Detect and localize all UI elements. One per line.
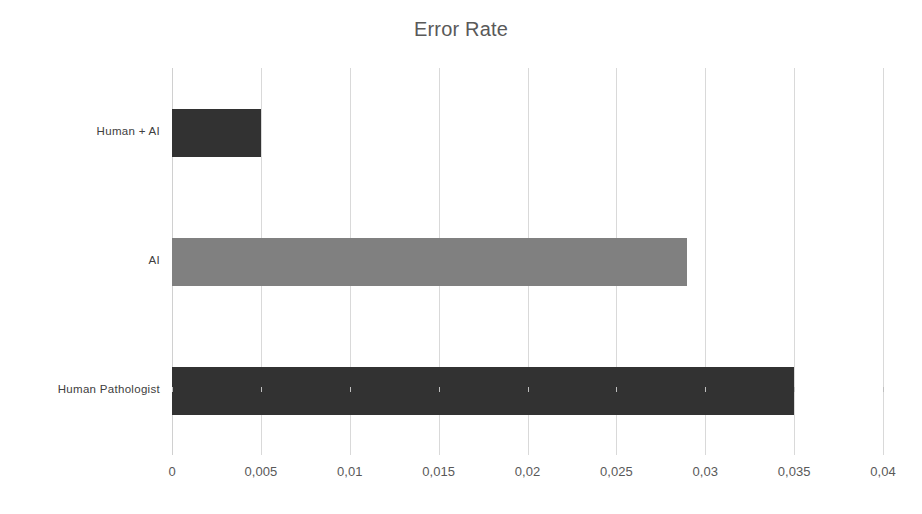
x-axis-tick-label: 0,035 (778, 464, 811, 479)
bar-human-pathologist[interactable] (172, 367, 794, 415)
x-axis-tickmark (261, 387, 262, 392)
x-axis-tick-label: 0 (168, 464, 175, 479)
x-axis-tickmark (883, 387, 884, 392)
x-axis-tick-label: 0,02 (515, 464, 540, 479)
x-axis-tick-label: 0,01 (337, 464, 362, 479)
x-axis-tickmark (172, 387, 173, 392)
bar-row (172, 238, 883, 286)
chart-container: Error Rate 00,0050,010,0150,020,0250,030… (0, 0, 922, 514)
x-axis-tickmark (794, 387, 795, 392)
bar-row (172, 109, 883, 157)
x-axis-tickmark (439, 387, 440, 392)
bar-human-ai[interactable] (172, 109, 261, 157)
x-axis-tick-label: 0,04 (870, 464, 895, 479)
bar-ai[interactable] (172, 238, 687, 286)
category-label: AI (0, 254, 172, 266)
x-axis-tickmark (350, 387, 351, 392)
category-label: Human Pathologist (0, 383, 172, 395)
chart-title: Error Rate (0, 18, 922, 41)
plot-area (172, 68, 883, 455)
x-axis-tickmark (705, 387, 706, 392)
x-axis-tick-label: 0,025 (600, 464, 633, 479)
x-axis-tickmark (528, 387, 529, 392)
x-axis-tick-label: 0,015 (422, 464, 455, 479)
x-axis-tick-label: 0,03 (693, 464, 718, 479)
gridline (883, 68, 884, 455)
x-axis-tick-label: 0,005 (245, 464, 278, 479)
x-axis-tickmark (616, 387, 617, 392)
category-label: Human + AI (0, 125, 172, 137)
